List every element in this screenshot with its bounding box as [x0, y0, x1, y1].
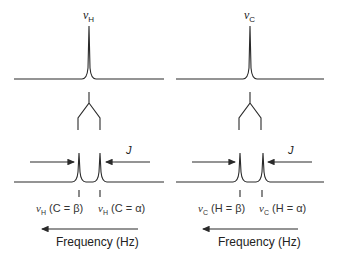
spin-state-text: (C = α)	[108, 202, 145, 214]
carbon-singlet-peak	[176, 26, 324, 79]
proton-coupling-label: J	[126, 144, 132, 156]
spin-state-text: (H = α)	[269, 202, 306, 214]
carbon-alpha-label: νC (H = α)	[259, 202, 306, 216]
proton-splitting-tree	[78, 92, 100, 130]
nucleus-subscript: H	[88, 15, 94, 24]
nucleus-subscript: C	[249, 15, 255, 24]
carbon-coupling-label: J	[288, 144, 294, 156]
proton-peak-ticks	[79, 190, 100, 197]
proton-doublet-peaks	[14, 153, 164, 182]
spin-state-text: (C = β)	[46, 202, 83, 214]
carbon-beta-label: νC (H = β)	[198, 202, 245, 216]
carbon-frequency-label: Frequency (Hz)	[218, 235, 301, 249]
nmr-splitting-diagram	[0, 0, 339, 259]
proton-frequency-label: Frequency (Hz)	[56, 235, 139, 249]
carbon-peak-label: νC	[244, 8, 255, 24]
proton-beta-label: νH (C = β)	[36, 202, 83, 216]
proton-singlet-peak	[14, 26, 164, 79]
carbon-doublet-peaks	[176, 153, 324, 182]
proton-alpha-label: νH (C = α)	[98, 202, 145, 216]
carbon-peak-ticks	[240, 190, 262, 197]
spin-state-text: (H = β)	[208, 202, 245, 214]
carbon-splitting-tree	[239, 92, 261, 130]
proton-peak-label: νH	[83, 8, 94, 24]
